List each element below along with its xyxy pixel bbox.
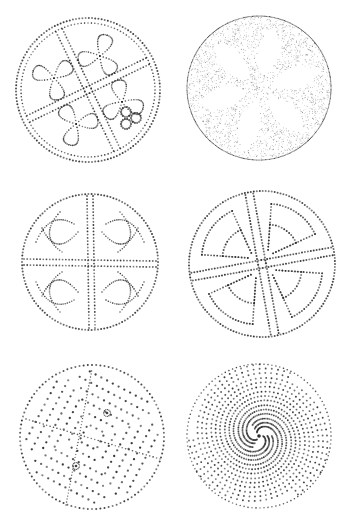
illustration-plate — [0, 0, 351, 522]
spiral-dot-disc — [186, 363, 332, 509]
six-petal-rosette-disc — [186, 15, 331, 160]
plate-canvas — [0, 0, 351, 522]
step-cross-disc — [188, 190, 336, 338]
cross-knotwork-disc — [21, 193, 159, 331]
dotted-quadrant-disc — [19, 364, 165, 510]
triquetra-knot-disc — [15, 17, 161, 163]
